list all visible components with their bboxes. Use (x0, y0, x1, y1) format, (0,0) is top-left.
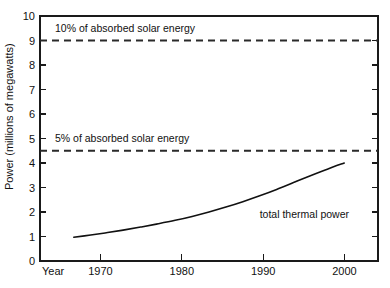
x-axis-ticks (101, 254, 345, 261)
y-tick-label-7: 7 (29, 84, 35, 96)
y-tick-label-8: 8 (29, 59, 35, 71)
y-axis-ticks-right (372, 41, 378, 237)
y-tick-label-4: 4 (29, 157, 35, 169)
x-tick-label-1990: 1990 (251, 265, 275, 277)
y-tick-label-9: 9 (29, 35, 35, 47)
x-axis-title: Year (42, 265, 65, 277)
y-axis-tick-labels: 0 1 2 3 4 5 6 7 8 9 10 (23, 10, 35, 267)
y-tick-label-3: 3 (29, 182, 35, 194)
y-tick-label-2: 2 (29, 206, 35, 218)
y-axis-ticks-left (40, 16, 46, 261)
reference-label-5-percent: 5% of absorbed solar energy (55, 132, 190, 144)
y-tick-label-6: 6 (29, 108, 35, 120)
thermal-power-chart: 10% of absorbed solar energy 5% of absor… (0, 0, 390, 288)
x-tick-label-1970: 1970 (88, 265, 112, 277)
y-tick-label-5: 5 (29, 133, 35, 145)
y-tick-label-1: 1 (29, 231, 35, 243)
series-total-thermal-power (74, 163, 344, 237)
y-tick-label-10: 10 (23, 10, 35, 22)
chart-container: 10% of absorbed solar energy 5% of absor… (0, 0, 390, 288)
x-axis-tick-labels: 1970 1980 1990 2000 (88, 265, 356, 277)
y-axis-title: Power (millions of megawatts) (3, 43, 15, 190)
reference-label-10-percent: 10% of absorbed solar energy (55, 22, 196, 34)
x-tick-label-2000: 2000 (332, 265, 356, 277)
series-label-total-thermal-power: total thermal power (260, 208, 350, 220)
y-tick-label-0: 0 (29, 255, 35, 267)
x-tick-label-1980: 1980 (170, 265, 194, 277)
